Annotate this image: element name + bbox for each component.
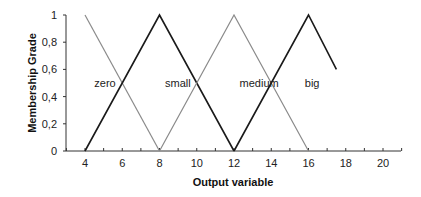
membership-chart: 00,20,40,60,81 468101214161820 zerosmall… [0, 0, 421, 197]
set-label-medium: medium [240, 77, 279, 89]
x-tick-label: 12 [228, 157, 240, 169]
y-ticks: 00,20,40,60,81 [42, 9, 66, 157]
x-axis-title: Output variable [193, 176, 274, 188]
set-label-big: big [305, 77, 320, 89]
series [85, 15, 336, 151]
set-labels: zerosmallmediumbig [94, 77, 319, 89]
axes [66, 15, 401, 151]
y-tick-label: 0 [51, 145, 57, 157]
x-tick-label: 8 [156, 157, 162, 169]
y-tick-label: 0,8 [42, 36, 57, 48]
x-tick-label: 10 [191, 157, 203, 169]
y-tick-label: 0,4 [42, 91, 57, 103]
x-tick-label: 14 [265, 157, 277, 169]
y-axis-title: Membership Grade [26, 33, 38, 133]
x-tick-label: 16 [302, 157, 314, 169]
x-tick-label: 20 [377, 157, 389, 169]
x-tick-label: 6 [119, 157, 125, 169]
x-tick-label: 4 [82, 157, 88, 169]
set-label-zero: zero [94, 77, 115, 89]
y-tick-label: 1 [51, 9, 57, 21]
y-tick-label: 0,6 [42, 63, 57, 75]
y-tick-label: 0,2 [42, 118, 57, 130]
set-label-small: small [165, 77, 191, 89]
x-tick-label: 18 [340, 157, 352, 169]
